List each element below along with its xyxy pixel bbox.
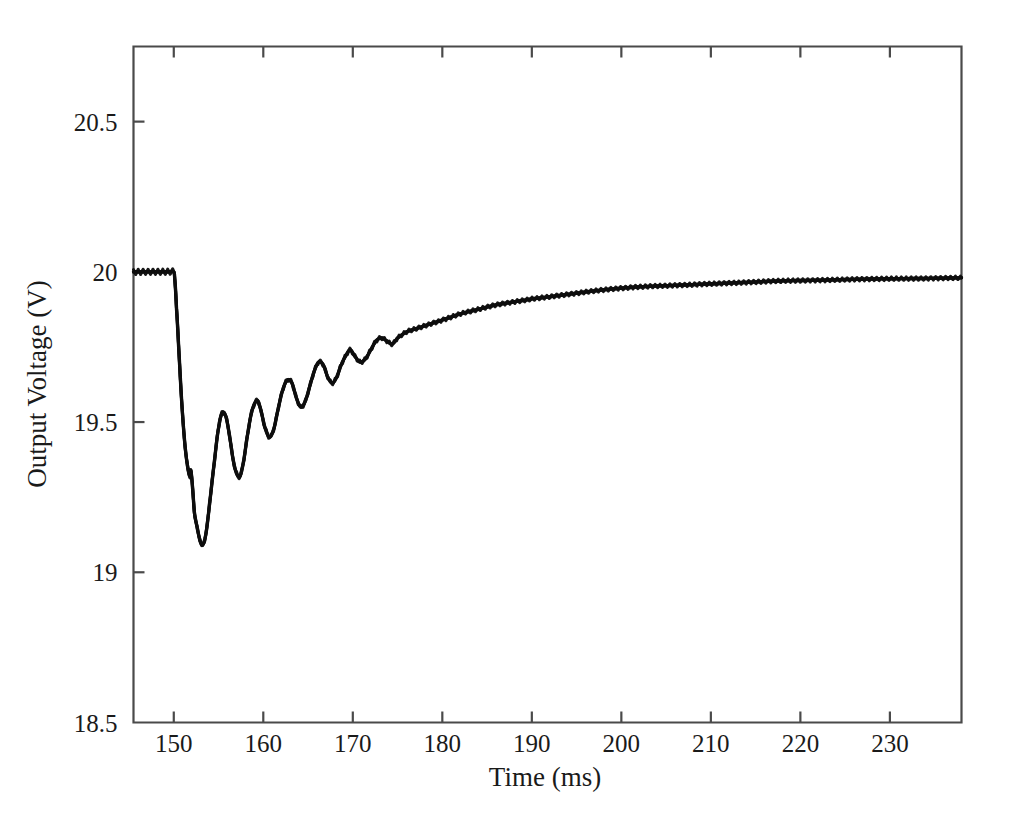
x-axis-title: Time (ms) — [489, 762, 601, 792]
x-tick-label: 220 — [782, 730, 820, 757]
y-tick-label: 19 — [93, 559, 118, 586]
y-tick-label: 19.5 — [74, 409, 118, 436]
y-tick-label: 18.5 — [74, 710, 118, 737]
x-tick-label: 200 — [603, 730, 641, 757]
x-axis-tick-labels: 150160170180190200210220230 — [155, 730, 909, 757]
x-tick-label: 210 — [692, 730, 730, 757]
output-voltage-transient-chart: 150160170180190200210220230 18.51919.520… — [0, 0, 1014, 819]
y-axis-title: Output Voltage (V) — [22, 280, 52, 487]
x-tick-label: 150 — [155, 730, 193, 757]
x-tick-label: 170 — [334, 730, 372, 757]
y-tick-label: 20 — [93, 259, 118, 286]
x-tick-label: 180 — [424, 730, 462, 757]
x-tick-label: 190 — [513, 730, 551, 757]
chart-page: 150160170180190200210220230 18.51919.520… — [0, 0, 1014, 819]
y-tick-label: 20.5 — [74, 109, 118, 136]
chart-background — [0, 0, 1014, 819]
x-tick-label: 230 — [871, 730, 909, 757]
x-tick-label: 160 — [245, 730, 283, 757]
